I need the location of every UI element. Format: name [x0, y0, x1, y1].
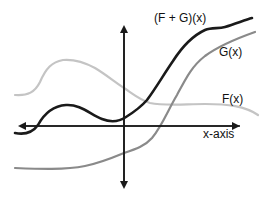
g-curve-label: G(x): [219, 46, 242, 58]
f-curve: [15, 60, 258, 115]
x-axis-label: x-axis: [203, 128, 234, 140]
sum-curve: [15, 18, 252, 134]
sum-curve-label: (F + G)(x): [154, 12, 206, 24]
f-curve-label: F(x): [222, 93, 243, 105]
